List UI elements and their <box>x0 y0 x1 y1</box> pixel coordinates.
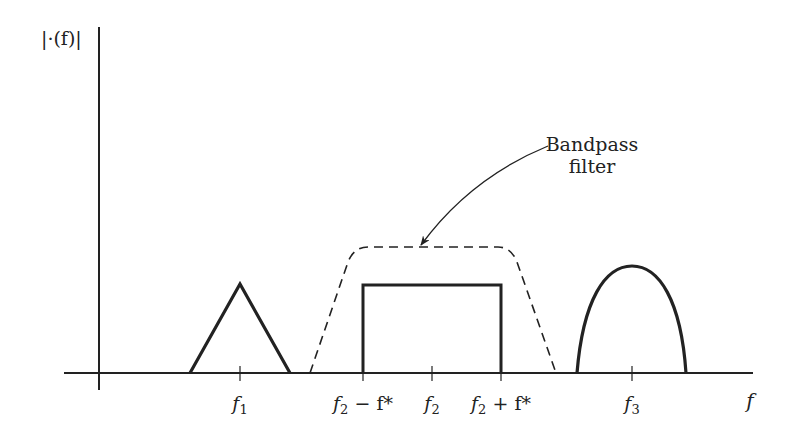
rectangle-spectrum <box>363 285 501 373</box>
x-axis-label: f <box>744 389 757 413</box>
annotation-label-line1: Bandpass <box>546 133 639 155</box>
tick-label-f2: f2 <box>422 392 439 417</box>
tick-label-f2-plus-fstar: f2 + f* <box>469 392 531 417</box>
y-axis-label: |·(f)| <box>41 27 82 50</box>
tick-label-f2-minus-fstar: f2 − f* <box>331 392 393 417</box>
annotation-arrow <box>421 146 548 245</box>
arch-spectrum <box>577 266 686 373</box>
tick-label-f1: f1 <box>230 392 247 417</box>
annotation-label-line2: filter <box>569 155 617 177</box>
triangle-spectrum <box>190 284 290 373</box>
tick-label-f3: f3 <box>622 392 639 417</box>
bandpass-filter-response <box>310 247 556 373</box>
spectrum-diagram: |·(f)| Bandpass filter f1 f2 − f* f2 f2 … <box>0 0 800 434</box>
